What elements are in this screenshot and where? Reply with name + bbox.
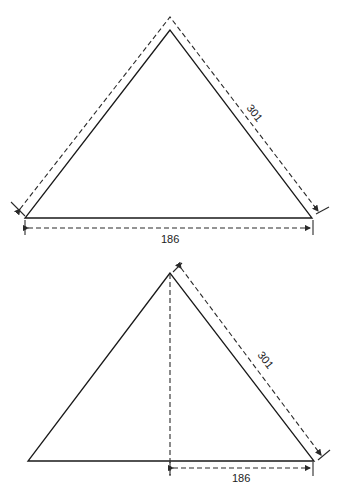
bottom-side-label: 301 bbox=[255, 349, 276, 371]
top-left-side-tick bbox=[11, 202, 25, 216]
top-base-label: 186 bbox=[161, 233, 179, 245]
top-right-side-tick bbox=[316, 207, 329, 214]
diagram-canvas: 301 186 301 186 bbox=[0, 0, 347, 499]
top-side-dimension-line bbox=[20, 17, 318, 211]
top-side-label: 301 bbox=[244, 102, 265, 124]
bottom-apex-tick bbox=[173, 263, 182, 272]
top-triangle-figure: 301 186 bbox=[11, 17, 329, 245]
bottom-base-label: 186 bbox=[232, 472, 250, 484]
bottom-side-dimension-line bbox=[181, 268, 321, 455]
bottom-triangle-figure: 301 186 bbox=[28, 263, 330, 484]
top-triangle bbox=[25, 30, 312, 218]
bottom-right-side-tick bbox=[318, 450, 330, 460]
